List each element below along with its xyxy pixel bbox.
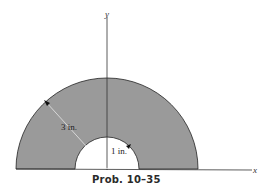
outer-radius-label: 3 in.	[61, 122, 77, 132]
x-axis	[16, 169, 252, 170]
inner-radius-label: 1 in.	[111, 146, 127, 156]
x-axis-label: x	[252, 165, 257, 175]
figure: 3 in. 1 in. y x Prob. 10–35	[0, 0, 279, 196]
figure-caption: Prob. 10–35	[92, 174, 161, 185]
y-axis-label: y	[104, 9, 109, 19]
semi-annulus-diagram: 3 in. 1 in. y x	[0, 0, 279, 196]
